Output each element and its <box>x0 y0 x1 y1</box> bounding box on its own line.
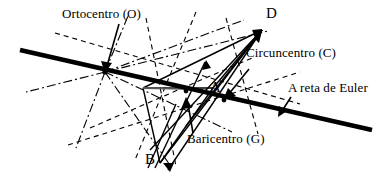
perp-bisector-3 <box>146 18 176 166</box>
arrow-line-orthocenter <box>107 24 119 66</box>
label-centroid: Baricentro (G) <box>187 132 265 145</box>
centroid-point <box>184 89 189 94</box>
label-vertex-d: D <box>266 6 277 21</box>
arrow-head-centroid <box>181 97 192 109</box>
label-euler-line: A reta de Euler <box>288 81 368 94</box>
label-vertex-a: A <box>210 80 221 95</box>
arrowhead-b-1 <box>163 163 174 172</box>
altitude-3 <box>26 72 105 92</box>
label-vertex-b: B <box>145 152 155 167</box>
label-circumcenter: Circuncentro (C) <box>246 46 336 59</box>
arrowheads-at-b <box>163 163 174 172</box>
altitude-6 <box>76 72 105 148</box>
label-orthocenter: Ortocentro (O) <box>62 7 141 20</box>
inner-side-2 <box>143 30 262 88</box>
euler-line-diagram: Ortocentro (O) Circuncentro (C) Baricent… <box>0 0 390 176</box>
